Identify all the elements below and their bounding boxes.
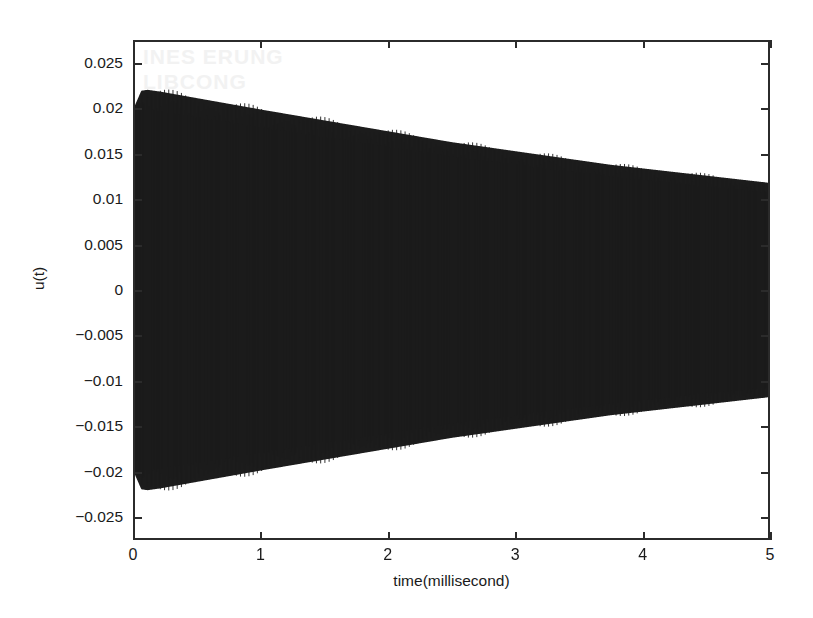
y-tick-right xyxy=(761,154,770,156)
x-tick-label-text: 4 xyxy=(638,546,647,564)
x-tick-label-text: 0 xyxy=(129,546,138,564)
x-axis-title: time(millisecond) xyxy=(133,572,770,590)
y-tick-right xyxy=(761,335,770,337)
y-tick xyxy=(133,426,142,428)
x-tick-top xyxy=(133,40,135,48)
figure-root: INES ERUNG LIBCONG 0.0250.020.0150.010.0… xyxy=(0,0,813,618)
x-tick xyxy=(770,532,772,540)
y-tick xyxy=(133,199,142,201)
x-tick-top xyxy=(770,40,772,48)
y-tick-label-text: −0.005 xyxy=(75,326,123,344)
y-tick xyxy=(133,290,142,292)
y-tick xyxy=(133,245,142,247)
y-tick-label-text: 0.01 xyxy=(93,190,123,208)
x-tick-top xyxy=(643,40,645,48)
x-tick-label-text: 3 xyxy=(511,546,520,564)
y-tick-right xyxy=(761,63,770,65)
y-tick-label-text: 0.015 xyxy=(84,145,123,163)
y-tick xyxy=(133,517,142,519)
y-tick-label-text: 0.005 xyxy=(84,236,123,254)
y-tick-right xyxy=(761,108,770,110)
x-tick xyxy=(133,532,135,540)
y-tick xyxy=(133,335,142,337)
plot-area: INES ERUNG LIBCONG xyxy=(133,40,770,540)
x-tick xyxy=(388,532,390,540)
x-tick-label-text: 5 xyxy=(766,546,775,564)
x-tick-label-text: 1 xyxy=(256,546,265,564)
y-tick-right xyxy=(761,199,770,201)
x-tick-top xyxy=(515,40,517,48)
x-tick-top xyxy=(260,40,262,48)
x-tick xyxy=(643,532,645,540)
x-tick-label-text: 2 xyxy=(383,546,392,564)
signal-trace xyxy=(135,42,768,538)
y-tick xyxy=(133,381,142,383)
y-tick xyxy=(133,154,142,156)
y-tick-label-text: −0.025 xyxy=(75,508,123,526)
x-tick-top xyxy=(388,40,390,48)
y-tick xyxy=(133,472,142,474)
y-tick-label-text: 0.025 xyxy=(84,54,123,72)
y-tick-right xyxy=(761,381,770,383)
x-tick xyxy=(260,532,262,540)
y-tick-label-text: 0 xyxy=(114,281,123,299)
y-tick-label-text: −0.01 xyxy=(84,372,123,390)
y-tick xyxy=(133,63,142,65)
x-tick xyxy=(515,532,517,540)
y-tick-label-text: −0.02 xyxy=(84,463,123,481)
y-tick-right xyxy=(761,245,770,247)
y-tick-right xyxy=(761,472,770,474)
y-tick xyxy=(133,108,142,110)
y-axis-title: u(t) xyxy=(30,267,48,290)
y-tick-right xyxy=(761,426,770,428)
y-tick-label-text: −0.015 xyxy=(75,417,123,435)
y-tick-label-text: 0.02 xyxy=(93,99,123,117)
y-tick-right xyxy=(761,290,770,292)
y-tick-right xyxy=(761,517,770,519)
